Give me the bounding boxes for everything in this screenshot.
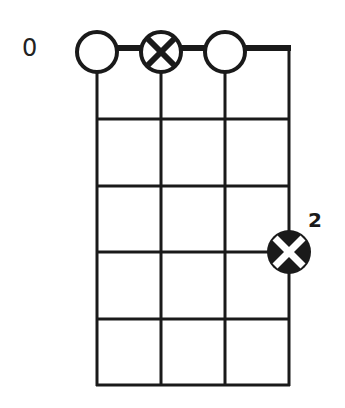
open-string-icon xyxy=(77,32,117,72)
fretted-note-icon xyxy=(267,230,311,274)
muted-string-icon xyxy=(141,32,181,72)
finger-number-label: 2 xyxy=(308,208,322,232)
fretboard-grid xyxy=(0,0,345,408)
open-string-icon xyxy=(205,32,245,72)
